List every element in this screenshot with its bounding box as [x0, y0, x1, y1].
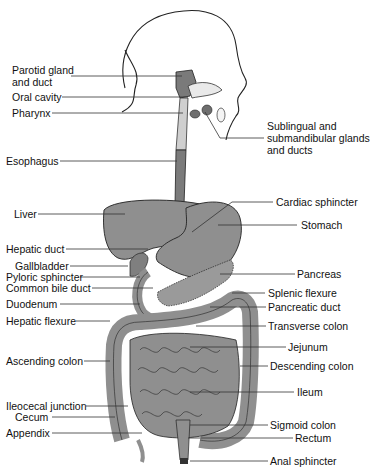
label-descending-colon: Descending colon	[270, 360, 353, 372]
label-pancreatic-duct: Pancreatic duct	[268, 301, 340, 313]
digestive-system-diagram: Parotid gland and duct Oral cavity Phary…	[0, 0, 377, 476]
pharynx-shape	[176, 98, 188, 150]
label-oral-cavity: Oral cavity	[12, 91, 62, 103]
label-ascending-colon: Ascending colon	[6, 355, 83, 367]
label-duodenum: Duodenum	[6, 298, 57, 310]
label-jejunum: Jejunum	[288, 341, 328, 353]
label-transverse-colon: Transverse colon	[268, 320, 348, 332]
label-pancreas: Pancreas	[297, 268, 341, 280]
submandibular-gland-2	[202, 105, 212, 115]
label-cecum: Cecum	[15, 411, 48, 423]
label-cardiac-sphincter: Cardiac sphincter	[276, 196, 358, 208]
oral-cavity-shape	[188, 83, 222, 98]
label-ileum: Ileum	[297, 386, 323, 398]
label-common-bile-duct: Common bile duct	[6, 282, 91, 294]
label-appendix: Appendix	[6, 427, 50, 439]
label-stomach: Stomach	[301, 219, 342, 231]
sublingual-gland	[217, 108, 225, 122]
label-rectum: Rectum	[295, 432, 331, 444]
label-sublingual-submandibular: Sublingual and submandibular glands and …	[267, 120, 370, 156]
label-hepatic-flexure: Hepatic flexure	[6, 315, 76, 327]
label-sigmoid-colon: Sigmoid colon	[270, 419, 336, 431]
label-esophagus: Esophagus	[6, 155, 59, 167]
label-hepatic-duct: Hepatic duct	[6, 243, 64, 255]
submandibular-gland-1	[190, 110, 200, 118]
appendix-shape	[138, 440, 143, 462]
esophagus-shape	[175, 150, 186, 205]
label-parotid-gland: Parotid gland and duct	[12, 64, 74, 88]
label-splenic-flexure: Splenic flexure	[268, 287, 337, 299]
label-liver: Liver	[14, 208, 37, 220]
anal-sphincter-shape	[180, 458, 188, 464]
rectum-shape	[176, 420, 190, 460]
label-anal-sphincter: Anal sphincter	[270, 455, 337, 467]
label-pharynx: Pharynx	[12, 107, 51, 119]
